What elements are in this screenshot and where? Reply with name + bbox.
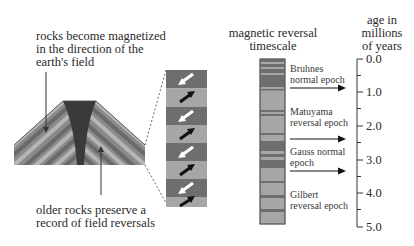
epoch-bruhnes-line-2: normal epoch [290, 74, 345, 85]
epoch-gilbert-line-2: reversal epoch [290, 200, 348, 211]
tick-5: 5.0 [366, 221, 382, 233]
age-title-line-2: millions [350, 27, 414, 39]
core-sample-strip [166, 70, 207, 207]
tick-4: 4.0 [366, 187, 382, 199]
magnetized-label-line-3: earth's field [36, 56, 94, 68]
epoch-matuyama-line-1: Matuyama [290, 106, 333, 117]
timescale-bar [260, 59, 285, 224]
timescale-title-line-1: magnetic reversal [228, 27, 318, 39]
tick-0: 0.0 [366, 53, 382, 65]
age-axis [357, 59, 363, 227]
epoch-gilbert-line-1: Gilbert [290, 189, 318, 200]
tick-3: 3.0 [366, 154, 382, 166]
epoch-gauss-line-2: epoch [290, 157, 314, 168]
epoch-matuyama-line-2: reversal epoch [290, 117, 348, 128]
zoom-line-top [145, 70, 166, 145]
age-title-line-1: age in [350, 14, 414, 26]
tick-2: 2.0 [366, 120, 382, 132]
age-title-line-3: of years [350, 40, 414, 52]
ridge-cross-section [8, 95, 151, 170]
older-rocks-label-line-2: record of field reversals [36, 217, 155, 229]
magnetized-label-line-1: rocks become magnetized [36, 30, 166, 42]
zoom-line-bottom [145, 165, 166, 203]
magnetized-label-line-2: in the direction of the [36, 43, 144, 55]
epoch-gauss-line-1: Gauss normal [290, 146, 345, 157]
tick-1: 1.0 [366, 86, 382, 98]
epoch-bruhnes-line-1: Bruhnes [290, 63, 323, 74]
older-rocks-label-line-1: older rocks preserve a [36, 204, 146, 216]
timescale-title-line-2: timescale [228, 40, 318, 52]
